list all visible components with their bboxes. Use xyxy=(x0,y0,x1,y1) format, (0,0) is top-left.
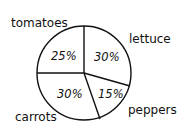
slice-carrots-percent: 30% xyxy=(57,87,83,101)
slice-lettuce-percent: 30% xyxy=(94,50,120,64)
label-lettuce: lettuce xyxy=(129,32,171,46)
label-carrots: carrots xyxy=(15,110,57,124)
slice-tomatoes-percent: 25% xyxy=(51,49,77,63)
label-peppers: peppers xyxy=(128,103,177,117)
label-tomatoes: tomatoes xyxy=(11,16,68,30)
slice-peppers-percent: 15% xyxy=(98,87,124,101)
pie-chart: 25% 30% 15% 30% tomatoes lettuce peppers… xyxy=(0,0,179,138)
